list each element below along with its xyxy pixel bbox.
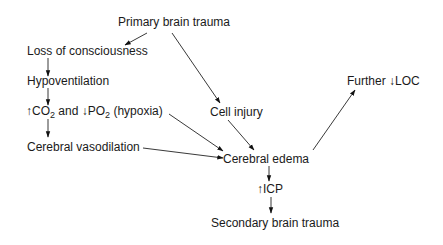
edges-layer: [0, 0, 443, 245]
node-hypoventilation: Hypoventilation: [27, 74, 109, 88]
node-cerebral-edema: Cerebral edema: [223, 152, 309, 166]
node-label: Secondary brain trauma: [211, 216, 339, 230]
node-label: LOC: [395, 74, 420, 88]
node-label: Cerebral vasodilation: [27, 140, 140, 154]
node-secondary-brain-trauma: Secondary brain trauma: [211, 216, 339, 230]
co2-text: CO: [32, 104, 50, 118]
po2-text: PO: [88, 104, 105, 118]
edge-primary-to-cell-injury: [172, 33, 220, 103]
further-text: Further: [347, 74, 389, 88]
node-further-loc: Further ↓LOC: [347, 74, 420, 88]
node-co2-po2-hypoxia: ↑CO2 and ↓PO2 (hypoxia): [26, 104, 163, 118]
node-primary-brain-trauma: Primary brain trauma: [118, 15, 230, 29]
node-label: Loss of consciousness: [27, 44, 148, 58]
edge-cell-injury-to-edema: [228, 120, 254, 150]
node-label: Cerebral edema: [223, 152, 309, 166]
node-icp: ↑ICP: [257, 182, 283, 196]
node-cell-injury: Cell injury: [210, 105, 263, 119]
node-loss-of-consciousness: Loss of consciousness: [27, 44, 148, 58]
node-label: Cell injury: [210, 105, 263, 119]
edge-gas-to-edema: [169, 114, 223, 151]
node-label: Hypoventilation: [27, 74, 109, 88]
node-label: Primary brain trauma: [118, 15, 230, 29]
and-text: and: [55, 104, 82, 118]
node-label: ICP: [263, 182, 283, 196]
hypoxia-text: (hypoxia): [110, 104, 163, 118]
node-cerebral-vasodilation: Cerebral vasodilation: [27, 140, 140, 154]
edge-vasodilation-to-edema: [143, 148, 223, 158]
edge-edema-to-further-loc: [313, 90, 355, 150]
